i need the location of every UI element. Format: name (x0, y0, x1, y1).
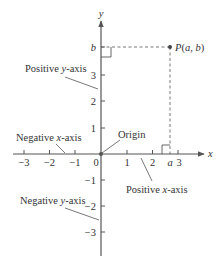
y-axis-label: y (98, 8, 104, 19)
x-tick-label: −1 (69, 157, 80, 168)
annotation-positive-x-axis: Positive x-axis (126, 184, 188, 195)
point-p-label: P(a, b) (174, 42, 205, 54)
y-tick-label: 2 (91, 96, 96, 107)
y-tick-label: −2 (85, 201, 96, 212)
y-tick-label: −3 (85, 227, 96, 238)
annotation-positive-y-axis: Positive y-axis (25, 63, 87, 74)
annotation-negative-x-axis: Negative x-axis (16, 132, 82, 143)
annotation-origin: Origin (118, 129, 146, 140)
right-angle-marker-y (101, 47, 111, 57)
y-tick-label: 1 (91, 123, 96, 134)
x-tick-label: −3 (18, 157, 29, 168)
x-tick-label: 3 (176, 157, 181, 168)
point-p-marker (168, 45, 172, 49)
coordinate-plane-diagram: −3 −2 −1 0 1 2 3 a 3 2 1 −1 −2 −3 b x y … (0, 0, 221, 259)
leader-negative-x-axis (56, 144, 65, 153)
point-x-symbol: a (167, 157, 172, 168)
x-tick-label: −2 (44, 157, 55, 168)
annotation-negative-y-axis: Negative y-axis (20, 195, 86, 206)
coordinate-plane-svg: −3 −2 −1 0 1 2 3 a 3 2 1 −1 −2 −3 b x y … (0, 0, 221, 259)
x-tick-label: 0 (93, 157, 98, 168)
x-tick-labels: −3 −2 −1 0 1 2 3 a (18, 157, 181, 168)
x-tick-label: 2 (150, 157, 155, 168)
y-tick-label: −1 (85, 175, 96, 186)
x-axis-label: x (207, 148, 213, 159)
leader-origin (102, 140, 120, 153)
y-tick-label: 3 (91, 70, 96, 81)
x-tick-label: 1 (124, 157, 129, 168)
point-y-symbol: b (91, 42, 96, 53)
right-angle-marker-x (162, 145, 170, 154)
